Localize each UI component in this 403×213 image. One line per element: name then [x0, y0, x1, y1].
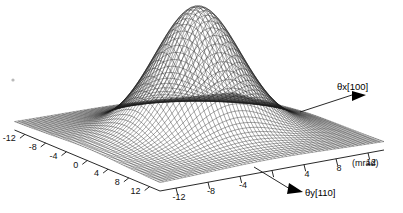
theta-x-tick	[62, 152, 67, 156]
mesh-line	[175, 75, 325, 151]
mesh-line	[182, 85, 332, 149]
mesh-line	[78, 14, 299, 145]
plot-canvas: -12-8-404812-12-8-44812(mrad) θx[100] θy…	[0, 0, 403, 213]
theta-y-label: θy[110]	[305, 187, 335, 198]
theta-y-tick-label: 4	[304, 169, 309, 179]
theta-y-tick	[272, 171, 274, 178]
theta-x-tick-label: 0	[73, 160, 78, 170]
stray-speck-icon	[11, 78, 14, 81]
theta-y-tick-label: -12	[172, 192, 185, 202]
wireframe-mesh	[15, 6, 385, 183]
surface-plot-figure: -12-8-404812-12-8-44812(mrad) θx[100] θy…	[0, 0, 403, 213]
theta-y-tick-label: -4	[239, 180, 247, 190]
theta-x-label: θx[100]	[337, 81, 368, 92]
theta-x-tick-label: -12	[3, 133, 16, 143]
theta-x-tick-label: -8	[29, 142, 37, 152]
theta-y-tick-label: -8	[207, 186, 215, 196]
theta-x-leader-line	[300, 95, 352, 112]
theta-x-tick	[41, 143, 46, 147]
theta-x-annotation: θx[100]	[300, 81, 368, 112]
mesh-line	[109, 18, 257, 162]
theta-x-tick-label: -4	[49, 151, 57, 161]
theta-x-tick-label: 8	[115, 177, 120, 187]
theta-x-tick-label: 4	[94, 168, 99, 178]
theta-x-tick	[124, 178, 129, 182]
theta-x-tick	[82, 161, 87, 165]
mesh-line	[87, 6, 308, 148]
theta-x-tick	[103, 169, 108, 173]
theta-x-arrow-icon	[352, 91, 366, 101]
theta-x-tick-label: 12	[131, 186, 141, 196]
theta-x-tick	[145, 187, 150, 191]
mesh-line	[95, 15, 317, 151]
unit-label: (mrad)	[352, 158, 379, 168]
theta-y-tick-label: 8	[336, 163, 341, 173]
theta-x-tick	[20, 134, 25, 138]
theta-y-arrow-icon	[287, 183, 303, 194]
